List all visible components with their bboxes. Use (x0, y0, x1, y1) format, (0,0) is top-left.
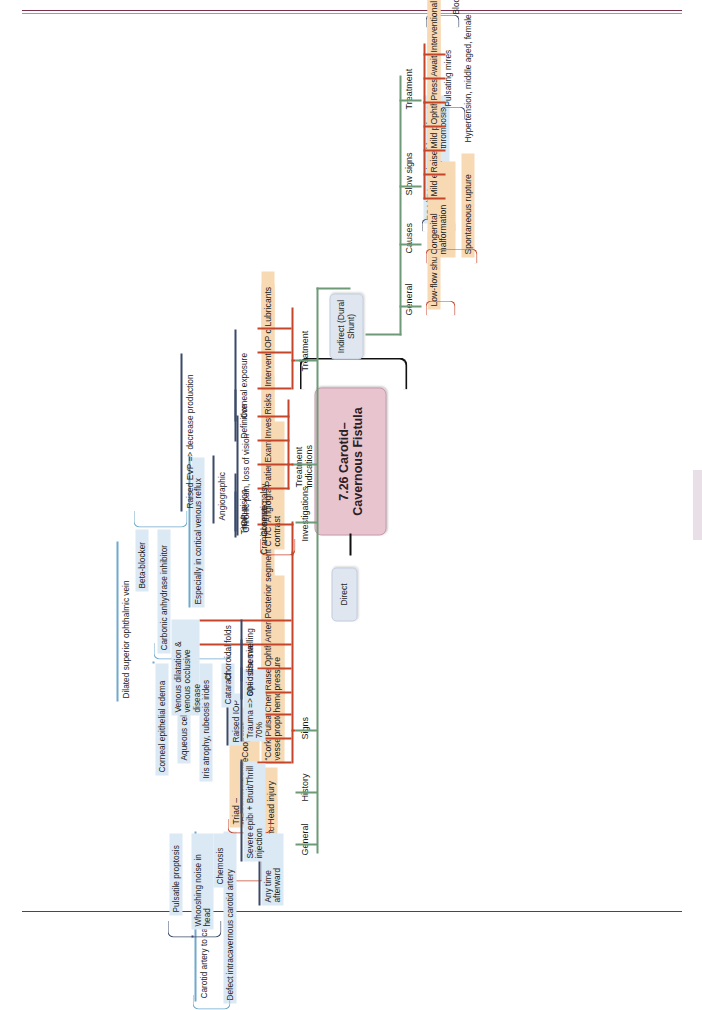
trunk-tick-history (296, 792, 318, 794)
leaf-dilated-superior-ophthalmic-vein: Dilated superior ophthalmic vein (120, 544, 133, 702)
cat-riser-ir-ind (424, 54, 446, 56)
leaf-corneal-exposure: Corneal exposure (238, 332, 251, 422)
leaf-beta-blocker: Beta-blocker (136, 530, 149, 592)
trunk-indirect-riser (366, 334, 402, 336)
cat-riser-await (424, 78, 446, 80)
leaf-pulsating-mires: Pulsating mires (442, 30, 455, 110)
cat-riser-iop-control (258, 352, 292, 354)
leaf-stroke-dilated-vein (117, 542, 119, 702)
section-label-signs: Signs (300, 717, 310, 740)
category-spontaneous-rupture[interactable]: Spontaneous rupture (462, 154, 475, 258)
leaf-stroke-raised-evp (181, 354, 183, 512)
pill-direct[interactable]: Direct (332, 568, 358, 622)
cat-riser-risks (258, 416, 290, 418)
leaf-bracket-general (193, 995, 231, 1010)
leaf-corneal-epithelial-edema: Corneal epithelial edema (156, 664, 169, 776)
tx-riser (292, 360, 296, 362)
inv-riser (292, 522, 294, 556)
trunk-indirect (400, 76, 402, 336)
leaf-bruit-thrill: + Bruit/Thrill (244, 762, 257, 814)
category-lubricants[interactable]: Lubricants (262, 272, 275, 330)
trunk-tick-treatment (296, 360, 318, 362)
tx-spine (292, 308, 294, 390)
leaf-riser-triad (192, 936, 194, 938)
leaf-hypertension-middle-aged: Hypertension, middle aged, female (462, 4, 475, 146)
cat-riser-raised-iop-ind (424, 174, 446, 176)
trunk-tick-tx-indirect (400, 100, 422, 102)
leaf-bracket-mires (440, 107, 466, 120)
trunk-tick-tx-ind (292, 464, 318, 466)
trunk-tick-general (296, 844, 318, 846)
central-topic: 7.26 Carotid–Cavernous Fistula (315, 388, 387, 536)
leaf-iris-atrophy: Iris atrophy, rubeosis irides (200, 664, 213, 782)
leaf-chemosis-hx: Chemosis (214, 834, 227, 888)
section-label-general-direct: General (300, 823, 310, 855)
leaf-bracket-triad (168, 921, 222, 938)
trunk-direct (317, 288, 319, 854)
section-label-history: History (300, 773, 310, 801)
leaf-angiographic-2: Angiographic (216, 458, 229, 524)
section-label-causes: Causes (404, 223, 414, 254)
cat-riser-investigation (258, 440, 290, 442)
pill-indirect[interactable]: Indirect (Dural Shunt) (330, 294, 364, 360)
category-interventional-radiology-indirect[interactable]: Interventional radiology (428, 0, 441, 56)
cat-riser-mild-epi (424, 198, 446, 200)
leaf-whooshing-noise: Whooshing noise in head (192, 834, 214, 930)
tx-ind-spine (288, 400, 290, 490)
leaf-raised-evp: Raised EVP => decrease production (184, 356, 197, 512)
trunk-tick-investigations (296, 522, 318, 524)
leaf-pulsatile-proptosis-hx: Pulsatile proptosis (170, 834, 183, 916)
leaf-bracket-iop-control (134, 511, 188, 528)
cat-riser-mild-proptosis (424, 150, 446, 152)
leaf-stroke-optic-disc (241, 620, 243, 700)
trunk-direct-riser (317, 288, 351, 290)
leaf-cranial-nerve-palsy: Cranial nerve palsy (258, 476, 271, 558)
trunk-tick-causes (400, 244, 422, 246)
section-label-slow-signs: Slow signs (404, 152, 414, 195)
cat-riser-lubricants (258, 328, 292, 330)
leaf-choroidal-folds: Choroidal folds (222, 622, 235, 684)
leaf-b1 (153, 662, 155, 664)
section-label-treatment-indications: Treatment indications (294, 444, 315, 488)
cat-bracket-low-flow (426, 301, 456, 316)
trunk-tick-slow-signs (400, 186, 422, 188)
leaf-stroke-corneal-exposure (235, 330, 237, 422)
trunk-tick-gen-indirect (400, 306, 422, 308)
section-label-treatment-direct: Treatment (300, 331, 310, 372)
section-label-treatment-indirect: Treatment (404, 69, 414, 110)
mindmap-canvas: 7.26 Carotid–Cavernous Fistula Direct In… (0, 1, 702, 922)
cat-riser-ir (258, 388, 292, 390)
section-label-investigations: Investigations (300, 486, 310, 541)
cat-riser-ophth-ind (424, 126, 446, 128)
leaf-stroke-bruit (241, 760, 243, 814)
root-stroke-left (350, 534, 352, 556)
signs-spine (292, 552, 294, 764)
leaf-optic-disc-swelling: Optic disc swelling (244, 622, 257, 700)
signs-riser (292, 730, 296, 732)
leaf-venous-dilatation: Venous dilatation & venous occlusive dis… (172, 620, 200, 716)
cat-riser-examination (258, 464, 290, 466)
cat-riser-pressure (424, 102, 446, 104)
leaf-stroke-angiographic (213, 456, 215, 524)
section-label-general-indirect: General (404, 283, 414, 315)
trunk-tick-signs (296, 730, 318, 732)
leaf-carbonic-anhydrase-inhibitor: Carbonic anhydrase inhibitor (158, 530, 171, 654)
cat-bracket-causes (426, 249, 478, 264)
tx-ind-spine2 (424, 44, 426, 104)
